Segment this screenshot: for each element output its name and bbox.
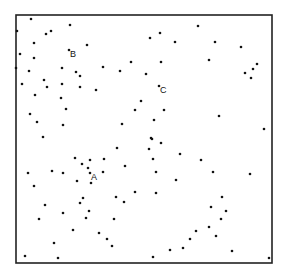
- data-point: [169, 249, 172, 252]
- data-point: [149, 37, 152, 40]
- data-point: [21, 83, 24, 86]
- data-point: [119, 70, 122, 73]
- data-point: [111, 245, 114, 248]
- data-point: [145, 73, 148, 76]
- data-point: [134, 191, 137, 194]
- data-point: [62, 212, 65, 215]
- data-point: [200, 159, 203, 162]
- data-point: [98, 232, 101, 235]
- data-point: [16, 30, 19, 33]
- data-point: [86, 44, 89, 47]
- point-label-a: A: [91, 172, 97, 182]
- data-point: [27, 172, 30, 175]
- data-point: [79, 86, 82, 89]
- point-label-c: C: [160, 85, 167, 95]
- data-point: [152, 158, 155, 161]
- data-point: [210, 206, 213, 209]
- data-point: [38, 218, 41, 221]
- data-point: [179, 153, 182, 156]
- data-point: [75, 71, 78, 74]
- data-point: [116, 147, 119, 150]
- data-point: [160, 142, 163, 145]
- data-point: [82, 197, 85, 200]
- data-point: [102, 171, 105, 174]
- data-point: [69, 24, 72, 27]
- data-point: [225, 210, 228, 213]
- data-point: [124, 165, 127, 168]
- data-point: [33, 42, 36, 45]
- data-point: [24, 255, 27, 258]
- data-point: [90, 182, 93, 185]
- data-point: [263, 128, 266, 131]
- data-point: [44, 204, 47, 207]
- data-point: [268, 257, 271, 260]
- data-point: [65, 108, 68, 111]
- data-point: [244, 72, 247, 75]
- data-point: [195, 230, 198, 233]
- data-point: [155, 192, 158, 195]
- data-point: [50, 30, 53, 33]
- data-point: [240, 46, 243, 49]
- data-point: [95, 89, 98, 92]
- data-point: [121, 123, 124, 126]
- data-point: [103, 158, 106, 161]
- data-point: [160, 61, 163, 64]
- data-point: [87, 167, 90, 170]
- data-points: [15, 18, 271, 260]
- data-point: [81, 163, 84, 166]
- plot-frame: [16, 15, 272, 263]
- data-point: [163, 109, 166, 112]
- data-point: [57, 257, 60, 260]
- data-point: [46, 86, 49, 89]
- data-point: [62, 124, 65, 127]
- data-point: [33, 57, 36, 60]
- data-point: [45, 33, 48, 36]
- data-point: [212, 171, 215, 174]
- data-point: [76, 180, 79, 183]
- data-point: [106, 238, 109, 241]
- point-label-b: B: [70, 49, 76, 59]
- data-point: [43, 79, 46, 82]
- data-point: [197, 25, 200, 28]
- data-point: [214, 41, 217, 44]
- data-point: [102, 66, 105, 69]
- data-point: [155, 171, 158, 174]
- data-point: [113, 218, 116, 221]
- data-point: [252, 68, 255, 71]
- data-point: [72, 229, 75, 232]
- data-point: [60, 97, 63, 100]
- data-point: [175, 179, 178, 182]
- data-point: [215, 235, 218, 238]
- data-point: [159, 32, 162, 35]
- data-point: [79, 75, 82, 78]
- data-point: [218, 115, 221, 118]
- data-point: [182, 247, 185, 250]
- data-point: [29, 113, 32, 116]
- data-point: [33, 185, 36, 188]
- data-point: [28, 70, 31, 73]
- data-point: [220, 218, 223, 221]
- data-point: [79, 202, 82, 205]
- data-point: [130, 61, 133, 64]
- data-point: [36, 121, 39, 124]
- data-point: [153, 119, 156, 122]
- scatter-plot: ABC: [0, 0, 287, 273]
- data-point: [123, 201, 126, 204]
- data-point: [53, 242, 56, 245]
- data-point: [189, 238, 192, 241]
- data-point: [208, 59, 211, 62]
- data-point: [85, 217, 88, 220]
- data-point: [42, 136, 45, 139]
- data-point: [61, 83, 64, 86]
- data-point: [221, 196, 224, 199]
- data-point: [256, 63, 259, 66]
- data-point: [152, 256, 155, 259]
- data-point: [249, 173, 252, 176]
- data-point: [134, 109, 137, 112]
- data-point: [151, 138, 154, 141]
- data-point: [34, 94, 37, 97]
- point-labels: ABC: [70, 49, 167, 182]
- data-point: [30, 18, 33, 21]
- data-point: [62, 172, 65, 175]
- data-point: [51, 170, 54, 173]
